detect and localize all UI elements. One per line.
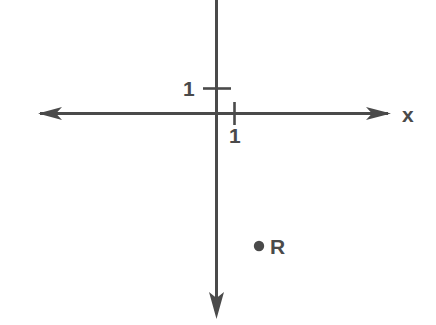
point-r-label: R <box>270 236 285 257</box>
x-axis-tick-label: 1 <box>229 125 241 146</box>
coordinate-plane-figure: 1 1 x R <box>0 0 436 325</box>
y-axis-tick-label: 1 <box>183 78 195 99</box>
coordinate-plane-canvas <box>0 0 436 325</box>
x-axis-name-label: x <box>402 104 414 125</box>
point-dot-icon <box>254 241 264 251</box>
